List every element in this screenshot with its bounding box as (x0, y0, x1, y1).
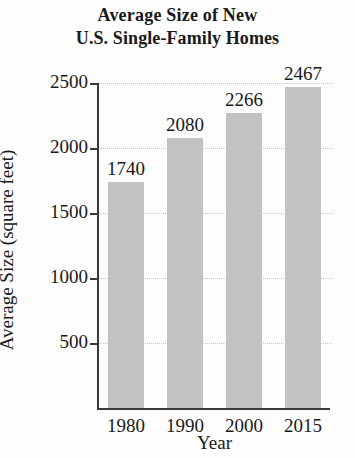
x-axis-line (97, 408, 330, 410)
bar-2015[interactable]: 2467 (285, 87, 321, 408)
x-axis-title: Year (97, 432, 332, 454)
chart-title-line-2: U.S. Single-Family Homes (0, 27, 355, 50)
chart-title-line-1: Average Size of New (0, 4, 355, 27)
bar-2000[interactable]: 2266 (226, 113, 262, 408)
bar-1980[interactable]: 1740 (108, 182, 144, 408)
y-tick-label-500: 500 (60, 331, 89, 353)
bar-value-2000: 2266 (225, 89, 263, 110)
bar-value-2015: 2467 (284, 63, 322, 84)
y-axis-title: Average Size (square feet) (0, 120, 18, 380)
y-tick-label-2000: 2000 (50, 136, 88, 158)
y-tick-label-1500: 1500 (50, 201, 88, 223)
bar-1990[interactable]: 2080 (167, 138, 203, 408)
bar-chart-figure: Average Size of New U.S. Single-Family H… (0, 0, 355, 458)
plot-area: 2500 2000 1500 1000 500 1740 2080 2266 (97, 83, 332, 408)
bar-value-1990: 2080 (166, 114, 204, 135)
bar-value-1980: 1740 (107, 158, 145, 179)
chart-title: Average Size of New U.S. Single-Family H… (0, 4, 355, 50)
y-tick-label-1000: 1000 (50, 266, 88, 288)
y-axis-line (97, 83, 99, 408)
y-tick-label-2500: 2500 (50, 71, 88, 93)
